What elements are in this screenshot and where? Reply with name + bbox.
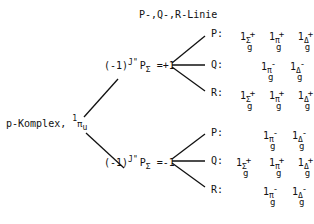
upper-Q-terms: 1π-g 1Δ-g [257, 55, 305, 74]
root-node: p-Komplex, 1πu [6, 119, 87, 130]
term-symbol: 1π+g [269, 31, 284, 42]
term-symbol: 1Σ+g [240, 31, 255, 42]
upper-to-P-line [172, 36, 205, 63]
term-symbol: 1Σ+g [236, 157, 251, 168]
term-symbol: 1π+g [269, 157, 284, 168]
condition-upper: (-1)J"PΣ =+1 [104, 58, 175, 74]
branch-line-upper [84, 79, 118, 117]
condition-lower: (-1)J"PΣ =-1 [104, 155, 175, 171]
lower-P-terms: 1π-g 1Δ-g [259, 124, 307, 143]
lower-Q-terms: 1Σ+g 1π+g 1Δ+g [232, 151, 313, 170]
diagram-title: P-,Q-,R-Linie [139, 10, 217, 20]
term-symbol: 1π+g [269, 90, 284, 101]
term-symbol: 1Δ+g [298, 157, 313, 168]
term-symbol: 1π-g [263, 186, 278, 197]
pi-symbol: π [77, 119, 82, 129]
term-symbol: 1Δ-g [292, 186, 307, 197]
lower-to-R-line [172, 163, 205, 187]
term-symbol: 1π-g [263, 130, 278, 141]
upper-P-terms: 1Σ+g 1π+g 1Δ+g [236, 25, 313, 44]
lower-R-label: R: [211, 185, 223, 195]
term-symbol: 1Σ+g [240, 90, 255, 101]
term-symbol: 1π-g [261, 61, 276, 72]
upper-to-R-line [172, 67, 205, 91]
term-symbol: 1Δ-g [290, 61, 305, 72]
term-symbol: 1Δ+g [298, 31, 313, 42]
lower-P-label: P: [211, 128, 223, 138]
term-symbol: 1Δ-g [292, 130, 307, 141]
lower-Q-label: Q: [211, 156, 223, 166]
lower-R-terms: 1π-g 1Δ-g [259, 180, 307, 199]
upper-R-terms: 1Σ+g 1π+g 1Δ+g [236, 84, 313, 103]
term-symbol: 1Δ+g [298, 90, 313, 101]
upper-P-label: P: [211, 29, 223, 39]
lower-to-P-line [172, 134, 205, 159]
upper-Q-label: Q: [211, 60, 223, 70]
upper-R-label: R: [211, 88, 223, 98]
root-label: p-Komplex, [6, 118, 66, 129]
